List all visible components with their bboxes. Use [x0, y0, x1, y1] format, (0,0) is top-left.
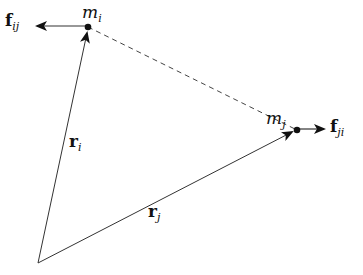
- label-r-j-sub: j: [157, 211, 160, 224]
- label-f-ij-sub: ij: [12, 20, 19, 33]
- force-diagram: fij mi mj fji ri rj: [0, 0, 363, 275]
- label-r-i-sub: i: [78, 141, 82, 154]
- label-m-j-sub: j: [282, 118, 285, 131]
- mass-j-point: [294, 127, 301, 134]
- label-r-i: ri: [69, 133, 82, 150]
- label-r-i-base: r: [69, 131, 78, 151]
- label-m-j: mj: [266, 110, 286, 127]
- label-f-ji: fji: [330, 118, 344, 135]
- mass-i-point: [85, 24, 92, 31]
- label-f-ji-sub: ji: [337, 126, 344, 139]
- label-m-i: mi: [82, 4, 102, 21]
- label-r-j-base: r: [148, 201, 157, 221]
- diagram-graphics: [0, 0, 363, 275]
- label-m-j-base: m: [266, 108, 282, 128]
- label-m-i-base: m: [82, 2, 98, 22]
- label-f-ij: fij: [5, 12, 19, 29]
- position-vector-rj-arrow: [38, 132, 292, 263]
- label-r-j: rj: [148, 203, 160, 220]
- label-m-i-sub: i: [98, 12, 102, 25]
